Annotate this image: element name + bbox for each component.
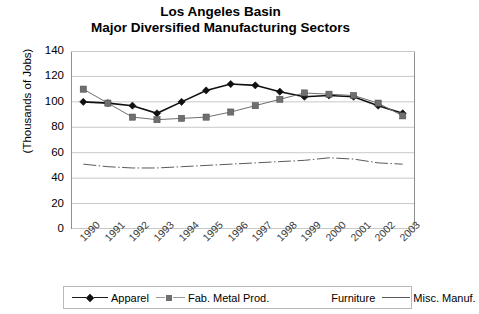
y-tick-20: 20 (24, 198, 64, 209)
legend-item-fab-metal-prod: Fab. Metal Prod. (156, 292, 272, 304)
legend-label-furniture: Furniture (331, 292, 375, 304)
y-tick-0: 0 (24, 223, 64, 234)
y-tick-40: 40 (24, 172, 64, 183)
legend-item-furniture: Furniture (302, 292, 378, 304)
legend-line-misc-manuf (382, 297, 410, 298)
y-tick-60: 60 (24, 147, 64, 158)
legend-label-misc-manuf: Misc. Manuf. (413, 292, 475, 304)
legend-label-apparel: Apparel (111, 292, 149, 304)
square-marker-icon (166, 295, 172, 301)
legend-label-fab-metal-prod: Fab. Metal Prod. (188, 292, 269, 304)
y-tick-140: 140 (24, 45, 64, 56)
legend-line-fab-metal (156, 297, 165, 298)
legend-item-misc-manuf: Misc. Manuf. (382, 292, 478, 304)
diamond-marker-icon (86, 293, 94, 301)
y-tick-80: 80 (24, 121, 64, 132)
legend-line-fab-metal-2 (173, 297, 185, 298)
chart-legend: Apparel Fab. Metal Prod. Furniture Misc.… (63, 286, 412, 309)
legend-item-apparel: Apparel (72, 292, 152, 304)
plot-area (71, 51, 415, 229)
y-tick-120: 120 (24, 70, 64, 81)
legend-line-furniture (302, 297, 328, 298)
legend-line-apparel (72, 297, 86, 298)
legend-line-apparel-2 (94, 297, 108, 298)
y-tick-100: 100 (24, 96, 64, 107)
